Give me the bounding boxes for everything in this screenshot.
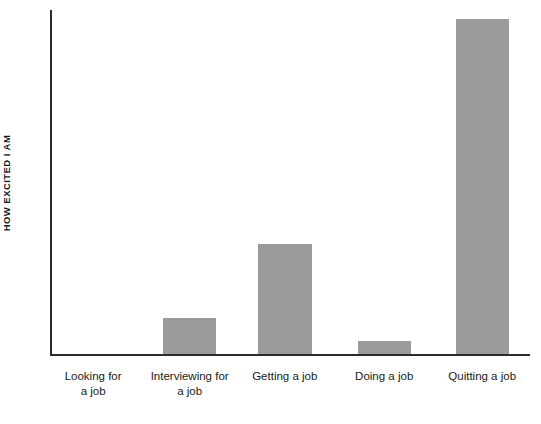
- y-axis-title: HOW EXCITED I AM: [0, 118, 14, 248]
- x-axis-labels: Looking for a job Interviewing for a job…: [52, 369, 530, 413]
- bar-slot: [66, 10, 119, 354]
- bar-slot: [258, 10, 312, 354]
- bar-chart-figure: HOW EXCITED I AM Looking for a job Inter…: [0, 0, 541, 424]
- bar-quitting-a-job: [456, 19, 509, 354]
- x-axis-label: Quitting a job: [430, 369, 535, 384]
- bar-getting-a-job: [258, 244, 312, 354]
- x-axis-label: Doing a job: [332, 369, 437, 384]
- x-axis-line: [50, 354, 530, 356]
- bar-slot: [163, 10, 216, 354]
- x-axis-label: Getting a job: [232, 369, 337, 384]
- bar-doing-a-job: [358, 341, 411, 354]
- bar-interviewing-for-a-job: [163, 318, 216, 354]
- bar-slot: [456, 10, 509, 354]
- plot-area: [52, 10, 530, 354]
- bar-slot: [358, 10, 411, 354]
- x-axis-label: Looking for a job: [41, 369, 146, 399]
- x-axis-label: Interviewing for a job: [137, 369, 242, 399]
